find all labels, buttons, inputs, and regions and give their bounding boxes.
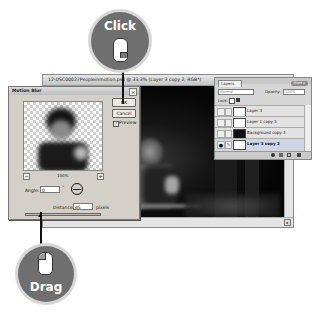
angle-dial[interactable] [71,183,83,195]
distance-slider[interactable] [25,213,101,216]
layers-footer [215,151,311,159]
distance-field[interactable]: 45 [73,203,93,210]
mouse-icon [113,38,128,62]
blend-mode-select[interactable]: Normal [218,89,254,95]
layers-panel: Layers More ▸ Normal Opacity: 100% Lock:… [214,77,312,160]
distance-unit: pixels [96,205,109,210]
mouse-icon [38,252,53,275]
eye-icon[interactable]: ● [217,141,225,149]
layer-row[interactable]: Layer 3 [215,105,305,116]
lock-label: Lock: [218,98,228,103]
layer-row[interactable]: Background copy 3 [215,127,305,138]
click-label: Click [91,19,149,33]
dialog-title: Motion Blur [9,87,139,95]
distance-label: Distance: [53,205,74,210]
layer-name: Background copy 3 [247,128,286,138]
layer-style-icon[interactable] [271,153,275,157]
lock-transparent-icon[interactable] [229,98,235,104]
trash-icon[interactable] [297,153,301,157]
angle-label: Angle: [25,188,39,193]
link-toggle[interactable] [225,119,232,127]
layer-name: Layer 1 copy 3 [247,117,277,127]
tab-layers[interactable]: Layers [218,80,242,87]
layer-name: Layer 3 copy 2 [247,139,280,149]
opacity-field[interactable]: 100% [283,89,305,95]
motion-blur-dialog: Motion Blur × − 100% + OK Cancel ✓ Previ… [8,86,140,220]
visibility-toggle[interactable] [217,108,225,116]
visibility-toggle[interactable] [217,130,225,138]
click-callout: Click [91,12,149,70]
preview-label: Preview [119,120,137,125]
lock-all-icon[interactable] [236,98,240,102]
layer-row[interactable]: Layer 1 copy 3 [215,116,305,127]
angle-field[interactable]: 0 [40,186,60,193]
new-layer-icon[interactable] [287,153,291,157]
layer-thumbnail [233,140,246,150]
zoom-level: 100% [57,173,68,178]
cancel-button[interactable]: Cancel [112,109,136,118]
ok-button[interactable]: OK [112,98,136,107]
link-toggle[interactable] [225,130,232,138]
adjustment-layer-icon[interactable] [279,153,283,157]
link-toggle[interactable] [225,108,232,116]
drag-label: Drag [18,280,74,294]
angle-unit: ° [62,185,64,190]
zoom-in-button[interactable]: + [97,173,104,180]
layer-name: Layer 3 [247,106,262,116]
drag-callout: Drag [18,246,74,302]
layer-row-active[interactable]: ● ✎ Layer 3 copy 2 [215,138,305,149]
more-button[interactable]: More ▸ [291,81,308,86]
brush-icon[interactable]: ✎ [225,141,232,149]
close-icon[interactable]: × [129,88,137,96]
layers-scrollbar[interactable] [304,105,311,151]
blur-preview[interactable] [23,101,103,171]
zoom-out-button[interactable]: − [23,173,30,180]
visibility-toggle[interactable] [217,119,225,127]
scroll-right-icon[interactable]: ▸ [284,219,291,226]
opacity-label: Opacity: [265,89,281,94]
